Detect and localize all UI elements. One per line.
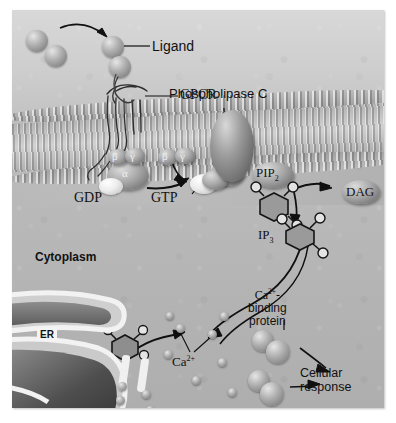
label-g-alpha: α xyxy=(122,167,128,179)
ca-binding-protein-line2: binding xyxy=(248,301,287,315)
cellular-response-line1: Cellular xyxy=(300,366,342,380)
label-gdp: GDP xyxy=(74,190,102,206)
ca-dash: - xyxy=(276,288,280,302)
calcium-ion xyxy=(220,312,229,321)
label-ca-binding-protein: Ca2+- binding protein xyxy=(248,286,287,327)
ca-binding-protein-line1: Ca2+- xyxy=(255,288,280,302)
label-ligand: Ligand xyxy=(152,38,194,54)
label-ip3-subscript: 3 xyxy=(270,236,274,245)
label-pip2-subscript: 2 xyxy=(275,174,279,183)
cellular-response-line2: response xyxy=(300,380,351,394)
calcium-ion xyxy=(208,330,217,339)
ca-charge: 2+ xyxy=(268,287,276,296)
calcium-ion xyxy=(118,382,127,391)
label-free-beta: β xyxy=(162,150,168,162)
label-calcium-text: Ca xyxy=(172,354,186,369)
label-calcium-ion: Ca2+ xyxy=(172,354,195,370)
label-ip3-text: IP xyxy=(258,227,270,242)
label-calcium-charge: 2+ xyxy=(186,354,195,363)
illustration-plate: Ligand GPCR Phospholipase C GDP GTP PIP2… xyxy=(12,10,384,408)
ca-text: Ca xyxy=(255,288,268,302)
er-membrane-system xyxy=(12,293,125,408)
calcium-ion xyxy=(228,388,237,397)
er-overlay xyxy=(12,10,384,408)
label-pip2-text: PIP xyxy=(256,165,275,180)
label-dag: DAG xyxy=(346,184,374,200)
label-cellular-response: Cellular response xyxy=(300,366,351,394)
calcium-ion xyxy=(166,312,174,320)
label-phospholipase-c: Phospholipase C xyxy=(169,86,267,101)
calcium-ion xyxy=(142,390,151,399)
label-pip2: PIP2 xyxy=(256,165,279,183)
figure-canvas: Ligand GPCR Phospholipase C GDP GTP PIP2… xyxy=(0,0,396,423)
calcium-ion xyxy=(176,324,185,333)
protein-lobe xyxy=(260,382,284,406)
label-free-gamma: γ xyxy=(180,150,185,162)
ca-binding-protein-line3: protein xyxy=(249,314,286,328)
label-gtp: GTP xyxy=(151,190,177,206)
calcium-ion xyxy=(146,406,155,408)
label-g-gamma: γ xyxy=(130,150,135,162)
calcium-ion xyxy=(192,376,201,385)
calcium-ion xyxy=(116,396,125,405)
label-er: ER xyxy=(37,328,57,341)
label-cytoplasm: Cytoplasm xyxy=(35,250,96,264)
protein-lobe xyxy=(266,340,290,364)
label-g-beta: β xyxy=(112,150,118,162)
label-ip3: IP3 xyxy=(258,227,274,245)
calcium-ion xyxy=(218,358,227,367)
